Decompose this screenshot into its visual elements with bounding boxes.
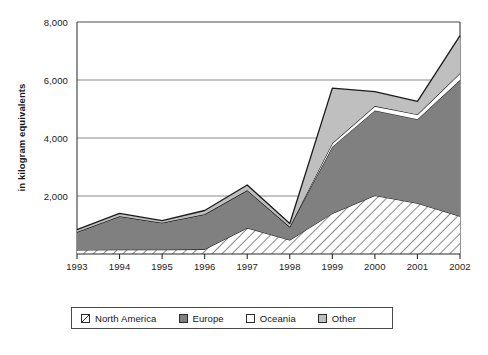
legend-entry-europe[interactable]: Europe [179,313,224,324]
series-layers [77,36,460,254]
chart-container: in kilogram equivalents 8,000 6,000 4,00… [0,0,488,355]
legend-entry-other[interactable]: Other [318,313,356,324]
x-axis-tick-2002: 2002 [437,261,483,272]
legend-swatch-oceania-icon [246,314,255,323]
x-axis-tick-1994: 1994 [97,261,143,272]
legend-entry-north-america[interactable]: North America [81,313,157,324]
x-axis-tick-1998: 1998 [267,261,313,272]
legend-entry-oceania[interactable]: Oceania [246,313,296,324]
legend: North AmericaEuropeOceaniaOther [71,307,393,329]
legend-label: Other [332,313,356,324]
legend-swatch-north-america-icon [81,314,90,323]
x-axis-tick-2000: 2000 [352,261,398,272]
legend-label: North America [95,313,157,324]
legend-swatch-europe-icon [179,314,188,323]
x-axis-ticks [77,254,460,259]
x-axis-tick-1996: 1996 [182,261,228,272]
x-axis-tick-2001: 2001 [394,261,440,272]
plot-area [0,0,488,355]
x-axis-tick-1997: 1997 [224,261,270,272]
x-axis-tick-1999: 1999 [309,261,355,272]
x-axis-tick-1995: 1995 [139,261,185,272]
legend-items: North AmericaEuropeOceaniaOther [72,308,392,328]
legend-label: Oceania [260,313,296,324]
legend-swatch-other-icon [318,314,327,323]
x-axis [77,254,460,259]
legend-label: Europe [193,313,224,324]
x-axis-tick-1993: 1993 [54,261,100,272]
